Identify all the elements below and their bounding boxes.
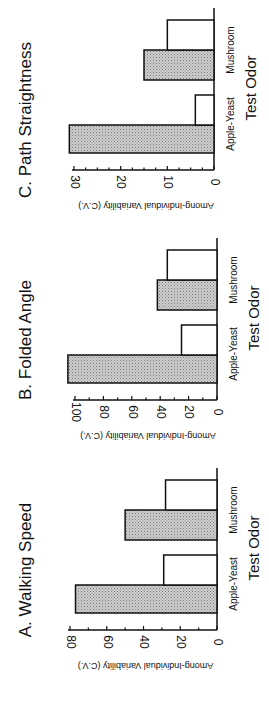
panel-b: 020406080100Among-Individual Variability… <box>16 238 261 441</box>
tick-label: 80 <box>97 405 111 419</box>
bar-hatched-apple-yeast <box>69 125 214 153</box>
bar-hatched-mushroom <box>125 510 217 540</box>
bar-open-apple-yeast <box>182 325 218 355</box>
bar-open-mushroom <box>167 20 214 50</box>
category-label: Mushroom <box>228 256 239 303</box>
chart-title: C. Path Straightness <box>16 42 35 198</box>
tick-label: 0 <box>211 409 225 416</box>
tick-label: 20 <box>182 405 196 419</box>
tick-label: 80 <box>64 635 78 649</box>
bar-open-apple-yeast <box>195 95 214 125</box>
figure: 020406080Among-Individual Variability (C… <box>0 0 269 705</box>
tick-label: 100 <box>69 402 83 422</box>
category-label: Mushroom <box>228 486 239 533</box>
category-label: Mushroom <box>225 26 236 73</box>
y-axis-label: Among-Individual Variability (C.V.) <box>80 431 216 441</box>
x-axis-label: Test Odor <box>242 55 259 120</box>
panel-a: 020406080Among-Individual Variability (C… <box>16 468 261 671</box>
tick-label: 0 <box>208 179 222 186</box>
x-axis-label: Test Odor <box>245 285 262 350</box>
bar-open-mushroom <box>166 480 217 510</box>
tick-label: 0 <box>211 639 225 646</box>
tick-label: 40 <box>154 405 168 419</box>
category-label: Apple-Yeast <box>228 327 239 381</box>
tick-label: 40 <box>137 635 151 649</box>
y-axis-label: Among-Individual Variability (C.V.) <box>78 201 214 211</box>
bar-hatched-apple-yeast <box>68 355 217 383</box>
chart-title: B. Folded Angle <box>16 280 35 400</box>
chart-title: A. Walking Speed <box>16 503 35 638</box>
panel-c: 0102030Among-Individual Variability (C.V… <box>16 8 258 211</box>
bar-hatched-mushroom <box>144 50 214 80</box>
x-axis-label: Test Odor <box>245 515 262 580</box>
tick-label: 60 <box>101 635 115 649</box>
bar-hatched-mushroom <box>157 280 217 310</box>
category-label: Apple-Yeast <box>225 97 236 151</box>
bar-open-mushroom <box>167 250 217 280</box>
tick-label: 60 <box>126 405 140 419</box>
tick-label: 10 <box>161 175 175 189</box>
tick-label: 20 <box>174 635 188 649</box>
tick-label: 20 <box>114 175 128 189</box>
bar-hatched-apple-yeast <box>76 585 217 613</box>
category-label: Apple-Yeast <box>228 557 239 611</box>
y-axis-label: Among-Individual Variability (C.V.) <box>78 661 214 671</box>
bar-open-apple-yeast <box>164 555 217 585</box>
tick-label: 30 <box>68 175 82 189</box>
